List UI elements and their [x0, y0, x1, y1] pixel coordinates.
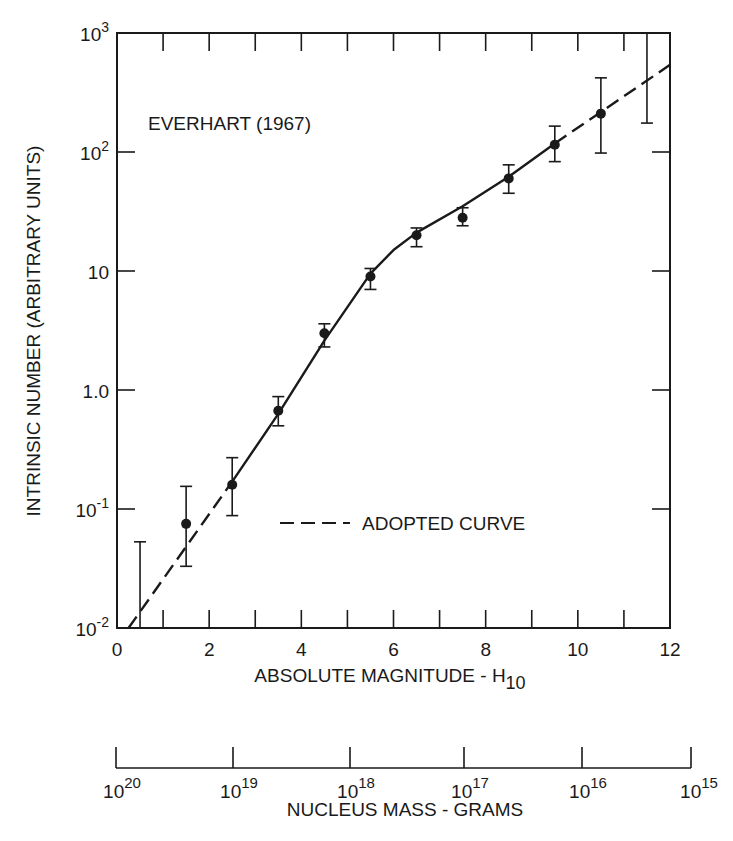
data-point-group: [364, 268, 376, 289]
data-point-marker: [319, 328, 329, 338]
data-point-marker: [412, 230, 422, 240]
data-point-marker: [458, 213, 468, 223]
annotation-everhart: EVERHART (1967): [148, 113, 311, 134]
secondary-tick-label: 1019: [220, 774, 258, 802]
secondary-tick-label: 1015: [680, 774, 718, 802]
solid-curve: [232, 143, 555, 481]
secondary-tick-label: 1017: [451, 774, 489, 802]
x-tick-label: 8: [480, 639, 491, 660]
secondary-tick-label: 1016: [569, 774, 607, 802]
y-tick-label: 103: [80, 19, 109, 45]
y-tick-label: 10: [88, 262, 109, 283]
x-tick-label: 0: [112, 639, 123, 660]
data-point-marker: [365, 271, 375, 281]
y-axis-label: INTRINSIC NUMBER (ARBITRARY UNITS): [23, 146, 44, 517]
x-tick-labels: 024681012: [112, 639, 681, 660]
x-tick-label: 6: [388, 639, 399, 660]
y-tick-label: 10-1: [75, 495, 109, 521]
data-point-marker: [550, 140, 560, 150]
y-axis-ticks: [117, 152, 670, 509]
secondary-tick-label: 1020: [103, 774, 141, 802]
secondary-tick-label: 1018: [337, 774, 375, 802]
data-point-marker: [227, 480, 237, 490]
secondary-x-axis-mass: 102010191018101710161015: [103, 747, 718, 802]
y-tick-label: 102: [80, 138, 109, 164]
dashed-curve-segment: [129, 482, 233, 628]
x-tick-label: 4: [296, 639, 307, 660]
data-point-group: [549, 126, 561, 162]
x-axis-label-subscript: 10: [506, 673, 526, 693]
y-tick-labels: 10-210-11.010102103: [75, 19, 109, 640]
legend-label: ADOPTED CURVE: [362, 513, 525, 534]
y-tick-label: 10-2: [75, 614, 109, 640]
data-point-group: [226, 458, 238, 516]
data-point-group: [134, 542, 146, 628]
data-point-marker: [181, 519, 191, 529]
legend: ADOPTED CURVE: [280, 513, 525, 534]
x-tick-label: 2: [204, 639, 215, 660]
x-tick-label: 10: [567, 639, 588, 660]
x-axis-label: ABSOLUTE MAGNITUDE - H10: [254, 665, 525, 693]
data-point-group: [503, 165, 515, 193]
data-point-group: [318, 324, 330, 347]
y-tick-label: 1.0: [83, 381, 109, 402]
data-point-group: [457, 208, 469, 226]
dashed-curve-segment: [555, 65, 670, 144]
x-tick-label: 12: [659, 639, 680, 660]
data-point-group: [595, 78, 607, 153]
data-point-marker: [504, 173, 514, 183]
adopted-curve: [129, 65, 670, 628]
chart: 024681012 10-210-11.010102103 EVERHART (…: [0, 0, 733, 841]
secondary-axis-label: NUCLEUS MASS - GRAMS: [287, 799, 523, 820]
data-point-marker: [596, 109, 606, 119]
x-axis-label-text: ABSOLUTE MAGNITUDE - H: [254, 665, 505, 686]
data-point-marker: [273, 406, 283, 416]
